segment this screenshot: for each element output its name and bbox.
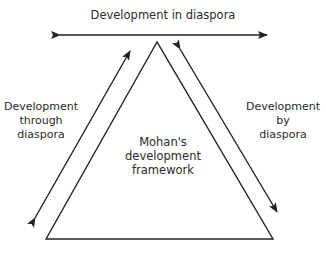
center-label-line: Mohan's (110, 135, 216, 149)
right-label-line: diaspora (240, 128, 326, 142)
right-label-line: Development (240, 100, 326, 114)
left-label: Development through diaspora (0, 100, 82, 142)
right-label: Development by diaspora (240, 100, 326, 142)
left-label-line: Development (0, 100, 82, 114)
left-label-line: through (0, 114, 82, 128)
left-label-line: diaspora (0, 128, 82, 142)
top-label: Development in diaspora (0, 8, 326, 22)
center-label: Mohan's development framework (110, 135, 216, 177)
right-label-line: by (240, 114, 326, 128)
center-label-line: framework (110, 163, 216, 177)
center-label-line: development (110, 149, 216, 163)
